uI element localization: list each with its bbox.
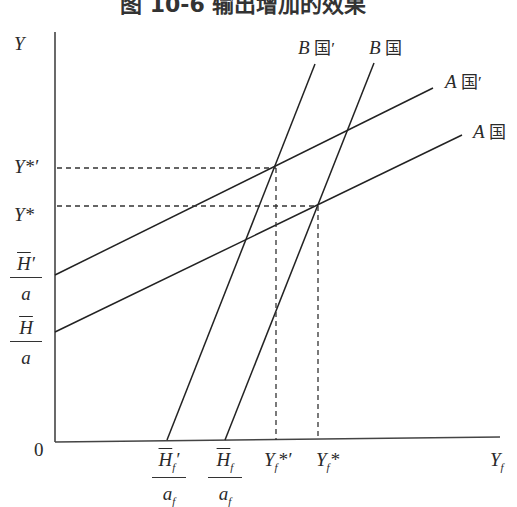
origin-label: 0 [34,440,44,459]
y-axis-label: Y [14,34,25,53]
line-a-prime-label: A 国′ [445,72,482,91]
line-b-prime [167,64,315,440]
h-prime-over-a-label: H′ a [10,252,42,303]
line-b-label: B 国 [369,38,402,57]
h-over-a-label: H a [10,316,42,367]
line-b-prime-label: B 国′ [298,38,335,57]
yf-star-label: Yf* [316,450,339,473]
hf-over-af-label: Hf af [208,448,242,507]
x-axis [55,437,500,442]
line-b [225,63,374,440]
x-axis-label: Yf [490,450,504,473]
y-star-prime-label: Y*′ [14,157,38,176]
hf-prime-over-af-label: Hf′ af [152,448,186,507]
line-a-label: A 国 [473,122,506,141]
line-a [55,135,462,332]
y-star-label: Y* [14,205,34,224]
yf-star-prime-label: Yf*′ [264,450,291,473]
line-a-prime [55,88,433,275]
